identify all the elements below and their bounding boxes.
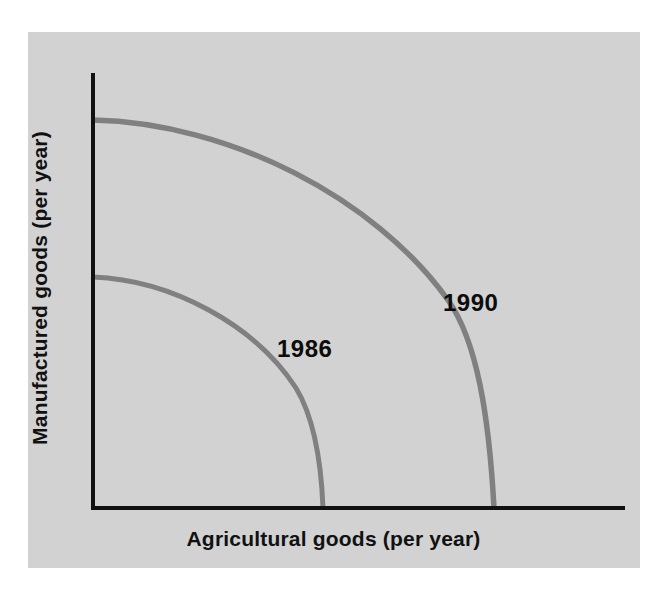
curve-1986 <box>93 277 323 508</box>
chart-plot-area <box>0 0 667 596</box>
figure-canvas: 1990 1986 Agricultural goods (per year) … <box>0 0 667 596</box>
curve-label-1990: 1990 <box>443 289 498 317</box>
x-axis-title: Agricultural goods (per year) <box>0 527 667 551</box>
y-axis-title: Manufactured goods (per year) <box>28 68 52 508</box>
curve-1990 <box>93 120 494 508</box>
curve-label-1986: 1986 <box>277 335 332 363</box>
y-axis-title-container: Manufactured goods (per year) <box>0 0 80 596</box>
